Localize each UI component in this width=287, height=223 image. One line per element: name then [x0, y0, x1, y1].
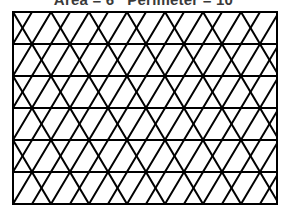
triangular-grid-diagram: [0, 0, 287, 223]
grid-diagonal-up: [108, 76, 127, 108]
grid-diagonal-up: [13, 108, 32, 140]
grid-diagonal-down: [0, 172, 13, 204]
grid-diagonal-up: [146, 140, 165, 172]
grid-diagonal-up: [13, 172, 32, 204]
grid-diagonal-up: [222, 12, 241, 44]
figure-root: Area = 6 Perimeter = 10: [0, 0, 287, 223]
grid-diagonal-up: [165, 44, 184, 76]
grid-diagonal-up: [32, 140, 51, 172]
grid-diagonal-up: [279, 108, 287, 140]
grid-diagonal-up: [70, 12, 89, 44]
grid-diagonal-up: [70, 140, 89, 172]
grid-diagonal-up: [279, 172, 287, 204]
grid-diagonal-up: [51, 172, 70, 204]
grid-diagonal-down: [279, 76, 287, 108]
grid-diagonal-up: [222, 140, 241, 172]
grid-diagonal-down: [0, 108, 13, 140]
grid-layer: [0, 12, 287, 204]
grid-diagonal-up: [89, 108, 108, 140]
grid-diagonal-up: [127, 108, 146, 140]
grid-diagonal-up: [89, 44, 108, 76]
grid-diagonal-up: [0, 140, 13, 172]
grid-diagonal-up: [165, 108, 184, 140]
grid-diagonal-up: [279, 140, 287, 172]
grid-diagonal-up: [0, 172, 13, 204]
grid-diagonal-up: [279, 12, 287, 44]
grid-diagonal-up: [32, 12, 51, 44]
grid-diagonal-up: [13, 44, 32, 76]
grid-diagonal-up: [146, 12, 165, 44]
grid-diagonal-up: [108, 12, 127, 44]
grid-diagonal-up: [0, 12, 13, 44]
grid-diagonal-up: [51, 108, 70, 140]
grid-diagonal-up: [127, 172, 146, 204]
grid-diagonal-up: [0, 76, 13, 108]
grid-diagonal-up: [241, 44, 260, 76]
grid-diagonal-up: [184, 140, 203, 172]
grid-diagonal-up: [70, 76, 89, 108]
grid-diagonal-up: [203, 108, 222, 140]
grid-diagonal-down: [0, 44, 13, 76]
grid-diagonal-up: [203, 172, 222, 204]
grid-diagonal-down: [279, 140, 287, 172]
grid-diagonal-up: [0, 108, 13, 140]
grid-diagonal-down: [279, 12, 287, 44]
grid-diagonal-up: [222, 76, 241, 108]
grid-diagonal-up: [108, 140, 127, 172]
grid-diagonal-up: [184, 76, 203, 108]
grid-diagonal-up: [51, 44, 70, 76]
grid-diagonal-up: [146, 76, 165, 108]
grid-diagonal-up: [32, 76, 51, 108]
grid-diagonal-up: [89, 172, 108, 204]
grid-diagonal-up: [127, 44, 146, 76]
grid-diagonal-up: [184, 12, 203, 44]
grid-diagonal-up: [203, 44, 222, 76]
grid-diagonal-up: [0, 44, 13, 76]
grid-diagonal-up: [279, 76, 287, 108]
grid-diagonal-up: [165, 172, 184, 204]
grid-diagonal-up: [241, 172, 260, 204]
grid-diagonal-up: [279, 44, 287, 76]
grid-diagonal-up: [241, 108, 260, 140]
